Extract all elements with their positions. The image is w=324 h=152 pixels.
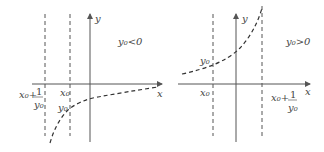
left-panel: y x y₀<0 x₀+ 1 y₀ x₀ y₀ xyxy=(19,13,163,143)
right-curve xyxy=(182,8,262,74)
right-asymptote-frac-num: 1 xyxy=(290,89,296,100)
left-y0-label: y₀ xyxy=(57,102,68,113)
right-condition-label: y₀>0 xyxy=(285,36,311,47)
left-asymptote-frac-num: 1 xyxy=(36,86,42,97)
right-panel: y x y₀>0 x₀ y₀ x₀+ 1 y₀ xyxy=(178,6,311,142)
left-condition-label: y₀<0 xyxy=(117,36,143,47)
left-x-axis-label: x xyxy=(157,88,163,99)
right-y-axis-label: y xyxy=(241,13,248,24)
right-asymptote-label: x₀+ xyxy=(271,92,289,103)
left-x0-label: x₀ xyxy=(60,87,70,98)
left-asymptote-frac-den: y₀ xyxy=(33,99,44,110)
right-x0-label: x₀ xyxy=(200,87,210,98)
diagram-canvas: y x y₀<0 x₀+ 1 y₀ x₀ y₀ y x y₀>0 x₀ y₀ x… xyxy=(0,0,324,152)
right-asymptote-frac-den: y₀ xyxy=(287,102,298,113)
right-x-axis-label: x xyxy=(305,86,311,97)
left-y-axis-label: y xyxy=(94,13,101,24)
right-y0-label: y₀ xyxy=(199,55,210,66)
